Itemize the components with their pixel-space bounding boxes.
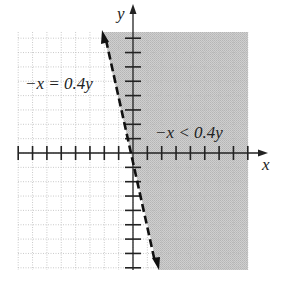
y-axis-label: y (115, 4, 125, 23)
boundary-label: −x = 0.4y (25, 74, 93, 93)
inequality-graph: y x −x = 0.4y −x < 0.4y (0, 0, 287, 287)
y-axis-arrow-icon (130, 4, 137, 14)
region-label: −x < 0.4y (155, 123, 223, 142)
x-axis-label: x (261, 155, 270, 174)
